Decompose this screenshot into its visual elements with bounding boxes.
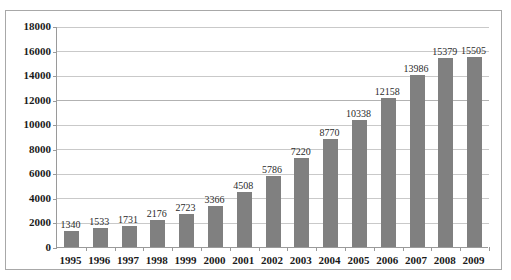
bar-value-label: 8770 (310, 128, 350, 138)
y-axis-tick-label: 6000 (5, 168, 51, 179)
bar-value-label: 7220 (281, 147, 321, 157)
bar-value-label: 5786 (252, 165, 292, 175)
chart-container: 0200040006000800010000120001400016000180… (0, 0, 511, 280)
y-tick-8000 (53, 150, 57, 151)
bar[interactable] (438, 58, 453, 247)
y-tick-12000 (53, 101, 57, 102)
bar-value-label: 4508 (223, 181, 263, 191)
bar[interactable] (410, 75, 425, 247)
x-tick (201, 247, 202, 251)
y-axis-tick-label: 10000 (5, 119, 51, 130)
bar[interactable] (266, 176, 281, 247)
bar-value-label: 10338 (338, 109, 378, 119)
bar[interactable] (64, 231, 79, 247)
y-tick-16000 (53, 52, 57, 53)
x-tick (374, 247, 375, 251)
x-tick (489, 247, 490, 251)
bar-value-label: 3366 (194, 195, 234, 205)
y-tick-10000 (53, 125, 57, 126)
y-axis-tick-label: 14000 (5, 70, 51, 81)
x-tick (316, 247, 317, 251)
bar-value-label: 12158 (367, 87, 407, 97)
x-tick (115, 247, 116, 251)
x-tick (287, 247, 288, 251)
y-axis-tick-label: 0 (5, 242, 51, 253)
bar[interactable] (381, 98, 396, 247)
bar[interactable] (294, 158, 309, 247)
bar[interactable] (323, 139, 338, 247)
x-tick (86, 247, 87, 251)
bar-value-label: 13986 (396, 64, 436, 74)
y-tick-18000 (53, 27, 57, 28)
x-tick (143, 247, 144, 251)
bar[interactable] (208, 206, 223, 247)
y-axis-tick-label: 2000 (5, 217, 51, 228)
y-tick-0 (53, 248, 57, 249)
bar[interactable] (93, 228, 108, 247)
y-axis-tick-label: 8000 (5, 144, 51, 155)
x-tick (345, 247, 346, 251)
bar[interactable] (179, 214, 194, 247)
y-axis-tick-label: 16000 (5, 46, 51, 57)
gridline-18000 (57, 27, 489, 28)
y-tick-4000 (53, 199, 57, 200)
x-axis-category-label: 2009 (454, 254, 494, 266)
bar[interactable] (122, 226, 137, 247)
x-tick (259, 247, 260, 251)
y-axis-tick-label: 4000 (5, 193, 51, 204)
x-tick (230, 247, 231, 251)
y-axis-labels: 0200040006000800010000120001400016000180… (0, 27, 51, 248)
bar[interactable] (352, 120, 367, 247)
y-tick-6000 (53, 174, 57, 175)
bar[interactable] (150, 220, 165, 247)
bar[interactable] (237, 192, 252, 247)
x-tick (172, 247, 173, 251)
bar[interactable] (467, 57, 482, 247)
x-tick (460, 247, 461, 251)
x-tick (403, 247, 404, 251)
y-tick-14000 (53, 76, 57, 77)
bar-value-label: 15505 (454, 46, 494, 56)
y-axis-tick-label: 12000 (5, 95, 51, 106)
x-tick (431, 247, 432, 251)
y-axis-tick-label: 18000 (5, 21, 51, 32)
